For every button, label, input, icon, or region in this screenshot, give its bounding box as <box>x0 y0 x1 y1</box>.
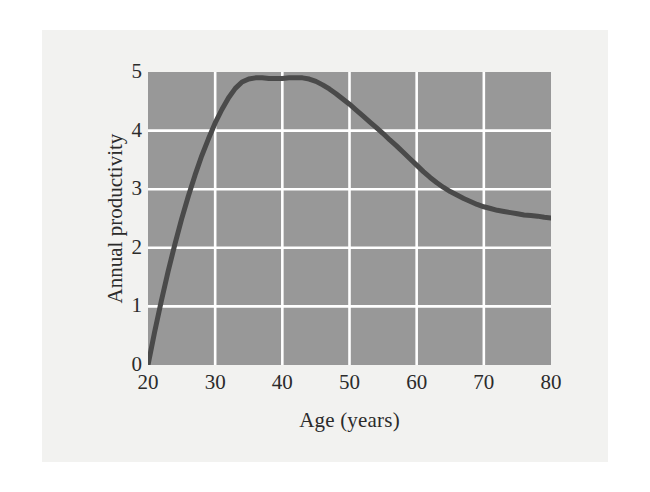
plot-area <box>148 72 551 365</box>
gridlines <box>148 72 551 365</box>
x-axis-title: Age (years) <box>148 408 551 433</box>
x-axis-tick-labels: 20304050607080 <box>148 372 551 402</box>
x-tick-label: 60 <box>395 372 439 393</box>
y-axis-title: Annual productivity <box>102 72 128 365</box>
figure-panel: 012345 20304050607080 Age (years) Annual… <box>42 30 608 462</box>
x-tick-label: 70 <box>462 372 506 393</box>
x-tick-label: 20 <box>126 372 170 393</box>
productivity-vs-age-chart: 012345 20304050607080 Age (years) Annual… <box>42 30 608 462</box>
x-tick-label: 50 <box>328 372 372 393</box>
x-tick-label: 40 <box>260 372 304 393</box>
x-tick-label: 80 <box>529 372 573 393</box>
x-tick-label: 30 <box>193 372 237 393</box>
plot-svg <box>148 72 551 365</box>
